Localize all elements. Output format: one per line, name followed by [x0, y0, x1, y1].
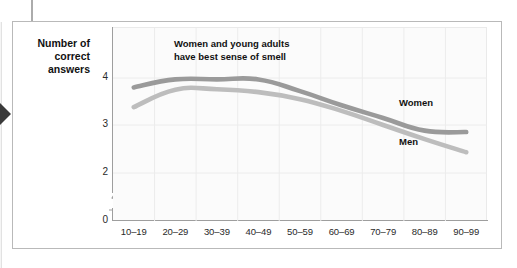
- x-tick-1: 20–29: [155, 226, 197, 237]
- annotation-line-1: Women and young adults: [174, 38, 289, 51]
- x-tick-4: 50–59: [279, 226, 321, 237]
- plot-area: [113, 27, 487, 220]
- chart-annotation: Women and young adults have best sense o…: [174, 38, 289, 64]
- series-label-men: Men: [399, 136, 418, 147]
- y-tick-0: 0: [90, 215, 108, 225]
- y-tick-2: 2: [90, 167, 108, 177]
- annotation-line-2: have best sense of smell: [174, 51, 289, 64]
- x-tick-3: 40–49: [238, 226, 280, 237]
- x-tick-5: 60–69: [321, 226, 363, 237]
- series-label-women: Women: [399, 97, 433, 108]
- x-tick-7: 80–89: [404, 226, 446, 237]
- y-axis-title: Number of correct answers: [18, 37, 90, 76]
- x-axis-tick-labels: 10–1920–2930–3940–4950–5960–6970–7980–89…: [113, 226, 487, 237]
- y-axis-title-line-1: Number of: [18, 37, 90, 50]
- page-edge-marker-icon: [0, 103, 11, 125]
- y-tick-4: 4: [90, 72, 108, 82]
- line-chart-canvas: [113, 28, 487, 221]
- x-tick-8: 90–99: [446, 226, 488, 237]
- scan-line-vertical: [31, 0, 33, 22]
- y-axis-tick-labels: 4320: [88, 0, 108, 268]
- x-tick-0: 10–19: [113, 226, 155, 237]
- y-tick-3: 3: [90, 119, 108, 129]
- x-tick-2: 30–39: [196, 226, 238, 237]
- y-axis-title-line-2: correct answers: [18, 50, 90, 76]
- x-tick-6: 70–79: [362, 226, 404, 237]
- scan-edge-left: [0, 22, 2, 268]
